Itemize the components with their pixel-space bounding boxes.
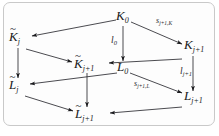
edge-label-s-jp1-L: sj+1,L	[134, 80, 150, 88]
edge-label-s-jp1-K: sj+1,K	[156, 17, 172, 25]
node-Ltilde-j1-subscript: j+1	[82, 114, 94, 123]
edge-Lj1-to-Ltilde-j1	[110, 107, 182, 113]
node-Lj1: Lj+1	[184, 89, 203, 102]
node-Ltilde-j: ~Lj	[9, 78, 18, 91]
node-Ktilde-j-subscript: j	[18, 37, 20, 46]
node-Kj1: Kj+1	[184, 38, 204, 51]
edge-K0-to-Ktilde-j	[32, 20, 116, 36]
edge-label-s-jp1-L-subscript: j+1,L	[137, 83, 149, 89]
edge-Ltilde-j-to-Ltilde-j1	[25, 96, 73, 111]
node-Ltilde-j1: ~Lj+1	[75, 107, 94, 120]
edge-L0-to-Ltilde-j	[30, 73, 117, 84]
node-Ktilde-j1: ~Kj+1	[74, 57, 94, 70]
node-Ktilde-j1-subscript: j+1	[83, 64, 95, 73]
edge-label-s-jp1-K-subscript: j+1,K	[159, 20, 172, 26]
node-K0: K0	[116, 9, 129, 22]
edge-label-l-jp1: lj+1	[180, 67, 192, 77]
tilde-accent-icon: ~	[75, 50, 81, 61]
tilde-accent-icon: ~	[10, 23, 16, 34]
node-L0-subscript: 0	[124, 67, 128, 76]
edge-label-l-0-subscript: 0	[114, 39, 117, 46]
node-Kj1-subscript: j+1	[193, 45, 205, 54]
edge-K0-to-Kj1	[131, 22, 182, 44]
tilde-accent-icon: ~	[75, 100, 81, 111]
figure-frame: K0 ~Kj Kj+1 ~Kj+1 L0 ~Lj Lj+1 ~Lj+1 sj+1…	[3, 2, 215, 126]
commutative-diagram-canvas	[4, 3, 215, 126]
tilde-accent-icon: ~	[9, 71, 15, 82]
node-K0-subscript: 0	[125, 16, 129, 25]
node-K0-base: K	[116, 8, 125, 23]
node-Ktilde-j: ~Kj	[9, 30, 20, 43]
edge-Ktilde-j-to-Ktilde-j1	[26, 49, 72, 62]
edge-label-l-0: l0	[111, 36, 117, 46]
edge-label-l-jp1-subscript: j+1	[183, 70, 192, 77]
node-Kj1-base: K	[184, 37, 193, 52]
node-Lj1-subscript: j+1	[191, 96, 203, 105]
node-L0: L0	[117, 60, 128, 73]
